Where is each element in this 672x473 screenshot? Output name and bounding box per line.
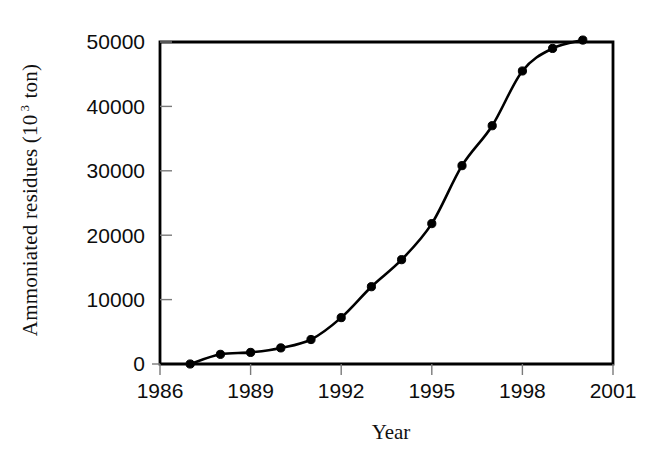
x-tick-label-1998: 1998 bbox=[499, 379, 546, 402]
chart-figure: Ammoniated residues (103 ton) Year bbox=[0, 0, 672, 473]
x-axis-ticks bbox=[160, 364, 613, 375]
y-axis-tick-labels: 0 10000 20000 30000 40000 50000 bbox=[87, 30, 145, 375]
data-point bbox=[398, 256, 406, 264]
x-tick-label-1986: 1986 bbox=[137, 379, 184, 402]
data-series-markers bbox=[186, 36, 587, 368]
data-point bbox=[277, 344, 285, 352]
y-tick-label-10000: 10000 bbox=[87, 288, 145, 311]
data-point bbox=[518, 67, 526, 75]
data-point bbox=[367, 283, 375, 291]
data-point bbox=[428, 220, 436, 228]
x-tick-label-1989: 1989 bbox=[227, 379, 274, 402]
y-tick-label-20000: 20000 bbox=[87, 224, 145, 247]
data-point bbox=[579, 36, 587, 44]
chart-plot-svg: 0 10000 20000 30000 40000 50000 1986 198… bbox=[0, 0, 672, 473]
data-point bbox=[186, 360, 194, 368]
data-point bbox=[247, 348, 255, 356]
data-point bbox=[549, 44, 557, 52]
y-tick-label-40000: 40000 bbox=[87, 95, 145, 118]
data-point bbox=[458, 162, 466, 170]
x-axis-tick-labels: 1986 1989 1992 1995 1998 2001 bbox=[137, 379, 637, 402]
y-axis-ticks bbox=[152, 42, 172, 364]
y-tick-label-30000: 30000 bbox=[87, 159, 145, 182]
x-tick-label-2001: 2001 bbox=[590, 379, 637, 402]
data-point bbox=[488, 122, 496, 130]
axis-frame bbox=[160, 42, 613, 364]
data-point bbox=[337, 314, 345, 322]
y-tick-label-0: 0 bbox=[133, 352, 145, 375]
data-point bbox=[307, 335, 315, 343]
data-series-line bbox=[190, 40, 583, 364]
data-series-group bbox=[186, 36, 587, 368]
x-tick-label-1995: 1995 bbox=[408, 379, 455, 402]
y-tick-label-50000: 50000 bbox=[87, 30, 145, 53]
data-point bbox=[216, 350, 224, 358]
x-tick-label-1992: 1992 bbox=[318, 379, 365, 402]
